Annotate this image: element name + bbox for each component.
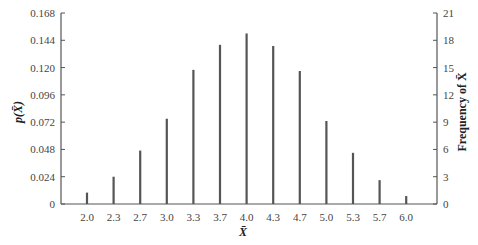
y2-tick-label: 15 — [443, 62, 455, 74]
chart: 00.0240.0480.0720.0960.1200.1440.1680369… — [0, 0, 478, 245]
x-tick-label: 2.3 — [107, 211, 121, 223]
x-tick-label: 5.3 — [346, 211, 360, 223]
x-tick-label: 4.3 — [266, 211, 280, 223]
x-tick-label: 5.7 — [373, 211, 387, 223]
y-tick-label: 0.144 — [30, 34, 55, 46]
x-axis-title: X̄ — [238, 225, 248, 239]
y-tick-label: 0.024 — [30, 171, 55, 183]
y2-tick-label: 3 — [443, 171, 449, 183]
bars — [87, 33, 406, 204]
x-tick-label: 6.0 — [399, 211, 413, 223]
y-tick-label: 0.096 — [30, 89, 55, 101]
y2-tick-label: 0 — [443, 198, 449, 210]
x-tick-label: 4.0 — [240, 211, 254, 223]
y2-tick-label: 9 — [443, 116, 449, 128]
y-tick-label: 0 — [50, 198, 56, 210]
y2-tick-label: 6 — [443, 143, 449, 155]
y-tick-label: 0.048 — [30, 143, 55, 155]
x-tick-label: 3.3 — [187, 211, 201, 223]
y2-tick-label: 12 — [443, 89, 454, 101]
y2-tick-label: 18 — [443, 34, 455, 46]
y-tick-label: 0.168 — [30, 7, 55, 19]
ticks: 00.0240.0480.0720.0960.1200.1440.1680369… — [30, 7, 454, 223]
y-tick-label: 0.072 — [30, 116, 55, 128]
x-tick-label: 3.7 — [213, 211, 227, 223]
y2-tick-label: 21 — [443, 7, 454, 19]
y2-axis-title: Frequency of X̄ — [455, 72, 469, 151]
x-tick-label: 4.7 — [293, 211, 307, 223]
axes — [61, 13, 437, 204]
y-tick-label: 0.120 — [30, 62, 55, 74]
x-tick-label: 3.0 — [160, 211, 174, 223]
x-tick-label: 2.0 — [80, 211, 94, 223]
y-axis-title: p(X̄) — [11, 101, 25, 124]
x-tick-label: 2.7 — [133, 211, 147, 223]
x-tick-label: 5.0 — [320, 211, 334, 223]
